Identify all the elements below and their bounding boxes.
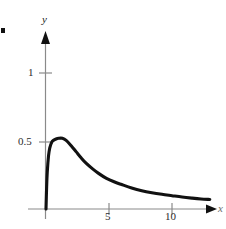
- x-tick-label-5: 5: [105, 211, 111, 222]
- x-axis-label: x: [218, 203, 223, 214]
- y-axis-label: y: [42, 14, 47, 25]
- y-tick-label-1: 1: [28, 67, 34, 78]
- plot-canvas: [0, 0, 226, 229]
- data-curve-line: [46, 138, 210, 209]
- x-axis-arrowhead: [206, 205, 217, 214]
- y-axis-arrowhead: [41, 31, 50, 44]
- figure-container: y x 1 0.5 5 10: [0, 0, 226, 229]
- x-tick-label-10: 10: [165, 211, 176, 222]
- axes-group: [28, 31, 217, 219]
- y-tick-label-0point5: 0.5: [18, 136, 32, 147]
